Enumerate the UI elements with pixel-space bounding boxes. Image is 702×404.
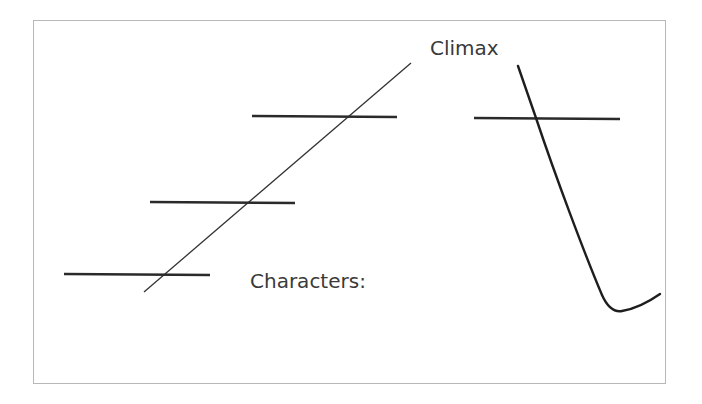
climax-label: Climax [430,38,499,58]
blank-line-3 [252,116,397,117]
blank-line-1 [64,274,210,275]
characters-label: Characters: [250,271,366,291]
blank-line-2 [150,202,295,203]
plot-diagram [0,0,702,404]
rising-action-line [144,63,411,292]
blank-line-4 [474,118,620,119]
falling-action-curve [518,66,660,311]
